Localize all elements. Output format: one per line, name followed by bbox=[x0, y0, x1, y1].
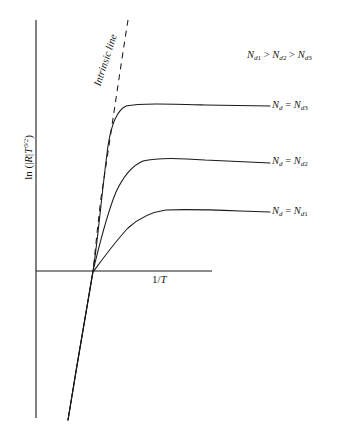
x-axis-label: 1/T bbox=[152, 274, 167, 285]
curve-nd3 bbox=[68, 104, 270, 420]
doping-ordering-note-text: Nd1 > Nd2 > Nd3 bbox=[247, 49, 312, 60]
curve-nd1 bbox=[68, 210, 270, 420]
y-axis-label: ln (|R|T3/2) bbox=[23, 110, 34, 206]
y-axis-label-text: ln (|R|T3/2) bbox=[22, 135, 34, 180]
curve-nd2 bbox=[68, 158, 270, 420]
x-axis-label-text: 1/T bbox=[152, 273, 167, 285]
curve-label-nd3: Nd = Nd3 bbox=[272, 100, 308, 112]
curve-label-nd3-text: Nd = Nd3 bbox=[272, 99, 308, 110]
hall-coefficient-figure: ln (|R|T3/2) 1/T Intrinsic line Nd1 > Nd… bbox=[0, 0, 345, 434]
curve-label-nd1-text: Nd = Nd1 bbox=[272, 205, 308, 216]
curve-label-nd2: Nd = Nd2 bbox=[272, 156, 308, 168]
curve-label-nd1: Nd = Nd1 bbox=[272, 206, 308, 218]
curve-label-nd2-text: Nd = Nd2 bbox=[272, 155, 308, 166]
doping-ordering-note: Nd1 > Nd2 > Nd3 bbox=[247, 50, 312, 62]
